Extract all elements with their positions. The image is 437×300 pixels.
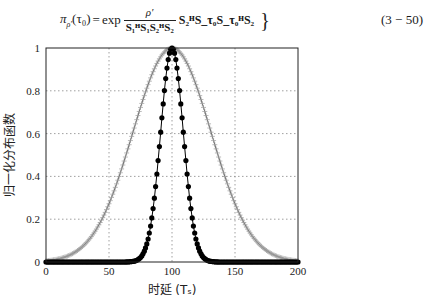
x-tick-label: 0 <box>43 265 49 277</box>
x-tick-label: 150 <box>227 265 244 277</box>
y-tick-label: 0 <box>35 256 41 268</box>
grid-lines <box>46 48 298 262</box>
x-tick-label: 50 <box>104 265 116 277</box>
x-tick-label: 200 <box>290 265 307 277</box>
y-tick-labels: 00.20.40.60.81 <box>26 42 40 268</box>
y-axis-label: 归一化分布函数 <box>2 113 17 197</box>
y-tick-label: 1 <box>35 42 41 54</box>
y-tick-label: 0.6 <box>26 128 40 140</box>
x-tick-label: 100 <box>164 265 181 277</box>
y-tick-label: 0.2 <box>26 213 40 225</box>
series-wide-distribution <box>44 46 301 264</box>
y-tick-label: 0.8 <box>26 85 40 97</box>
series-narrow-distribution <box>43 45 300 264</box>
x-axis-label: 时延 (Tₛ) <box>148 283 197 297</box>
y-tick-label: 0.4 <box>26 170 40 182</box>
chart: 050100150200 00.20.40.60.81 时延 (Tₛ) 归一化分… <box>0 0 437 300</box>
x-tick-labels: 050100150200 <box>43 265 307 277</box>
